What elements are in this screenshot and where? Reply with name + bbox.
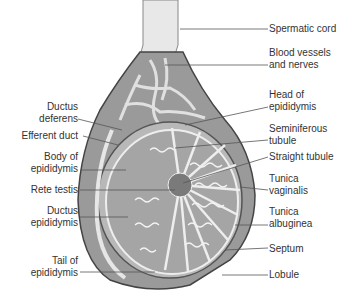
label-body-of-epididymis: Body of epididymis [31, 151, 78, 175]
label-straight-tubule: Straight tubule [269, 151, 334, 163]
label-tail-of-epididymis: Tail of epididymis [31, 255, 78, 279]
label-blood-vessels-and-nerves: Blood vessels and nerves [269, 47, 331, 71]
label-head-of-epididymis: Head of epididymis [269, 89, 316, 113]
label-tunica-vaginalis: Tunica vaginalis [269, 173, 308, 197]
label-tunica-albuginea: Tunica albuginea [269, 206, 312, 230]
label-ductus-epididymis: Ductus epididymis [31, 205, 78, 229]
label-rete-testis: Rete testis [31, 184, 78, 196]
label-ductus-deferens: Ductus deferens [39, 101, 78, 125]
label-seminiferous-tubule: Seminiferous tubule [269, 123, 327, 147]
label-septum: Septum [269, 243, 303, 255]
label-efferent-duct: Efferent duct [21, 130, 78, 142]
testis-illustration [0, 0, 360, 298]
label-spermatic-cord: Spermatic cord [269, 23, 336, 35]
label-lobule: Lobule [269, 269, 299, 281]
testis-diagram: Ductus deferens Efferent duct Body of ep… [0, 0, 360, 298]
